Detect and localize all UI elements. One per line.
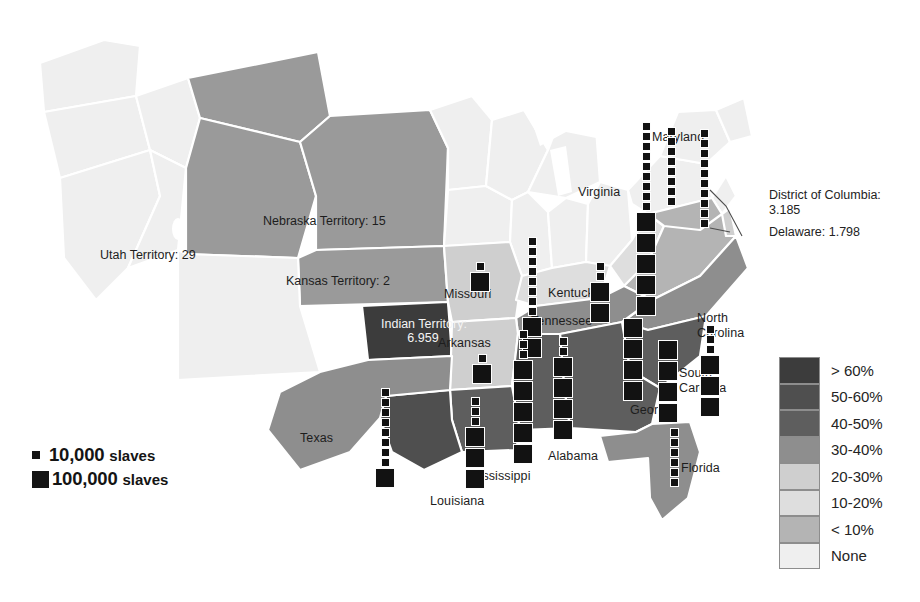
state-label: Texas xyxy=(300,432,333,445)
small-dot xyxy=(700,219,709,228)
legend-label: 50-60% xyxy=(831,388,883,405)
big-dot xyxy=(553,399,573,419)
dot-stack xyxy=(700,129,709,229)
state-label: Virginia xyxy=(578,186,620,199)
small-dot xyxy=(381,408,390,417)
legend-label: 20-30% xyxy=(831,468,883,485)
big-dot xyxy=(472,364,492,384)
small-dot xyxy=(670,428,679,437)
dot-stack xyxy=(623,318,643,402)
big-dot xyxy=(700,397,720,417)
percentage-legend: > 60%50-60%40-50%30-40%20-30%10-20%< 10%… xyxy=(779,357,883,569)
legend-row: 20-30% xyxy=(779,463,883,490)
legend-label: 40-50% xyxy=(831,415,883,432)
territory-newmexico xyxy=(178,250,320,380)
key-row-small: 10,000 slaves xyxy=(32,443,168,467)
small-dot xyxy=(528,307,537,316)
small-dot xyxy=(519,330,528,339)
dot-stack xyxy=(636,122,656,317)
small-dot xyxy=(706,345,715,354)
big-dot xyxy=(700,355,720,375)
small-dot xyxy=(642,142,651,151)
state-label: Louisiana xyxy=(430,495,484,508)
small-dot xyxy=(381,438,390,447)
small-dot xyxy=(559,337,568,346)
state-california xyxy=(60,150,160,300)
small-dot xyxy=(700,209,709,218)
big-dot xyxy=(636,254,656,274)
legend-row: 40-50% xyxy=(779,410,883,437)
small-dot xyxy=(528,267,537,276)
small-dot xyxy=(642,172,651,181)
small-dot xyxy=(528,257,537,266)
small-dot xyxy=(667,137,676,146)
small-dot xyxy=(478,354,487,363)
territory-label: Indian Territory: xyxy=(381,318,465,332)
small-dot xyxy=(381,398,390,407)
legend-swatch xyxy=(779,516,820,543)
small-dot xyxy=(700,169,709,178)
state-indiana xyxy=(548,198,588,268)
small-dot xyxy=(519,340,528,349)
big-dot xyxy=(470,272,490,292)
small-dot xyxy=(381,428,390,437)
small-dot xyxy=(700,129,709,138)
small-dot xyxy=(670,468,679,477)
big-dot xyxy=(700,376,720,396)
state-label: Maryland xyxy=(652,131,704,144)
big-dot-swatch xyxy=(32,471,49,488)
big-dot xyxy=(658,340,678,360)
small-dot xyxy=(700,199,709,208)
small-dot xyxy=(471,417,480,426)
small-dot xyxy=(642,132,651,141)
big-dot xyxy=(636,233,656,253)
big-dot xyxy=(465,469,485,489)
small-dot xyxy=(381,388,390,397)
legend-swatch xyxy=(779,490,820,517)
small-dot xyxy=(642,192,651,201)
small-dot xyxy=(667,177,676,186)
legend-swatch xyxy=(779,543,820,570)
small-dot xyxy=(706,325,715,334)
small-dot xyxy=(667,157,676,166)
small-dot xyxy=(471,397,480,406)
big-dot xyxy=(623,318,643,338)
dot-stack xyxy=(590,262,610,324)
legend-row: None xyxy=(779,543,883,570)
legend-label: > 60% xyxy=(831,362,874,379)
big-dot xyxy=(513,381,533,401)
territory-label: 6.959 xyxy=(381,332,465,346)
small-dot xyxy=(700,189,709,198)
territory-label: Nebraska Territory: 15 xyxy=(263,214,386,228)
small-dot xyxy=(528,287,537,296)
small-dot xyxy=(381,448,390,457)
dot-stack xyxy=(670,428,679,488)
territory-label: Kansas Territory: 2 xyxy=(286,274,390,288)
small-dot xyxy=(670,438,679,447)
dot-stack xyxy=(472,354,492,385)
small-dot xyxy=(667,147,676,156)
state-label: North xyxy=(697,312,728,325)
small-dot xyxy=(642,162,651,171)
small-dot xyxy=(700,179,709,188)
big-dot xyxy=(553,357,573,377)
big-dot xyxy=(623,360,643,380)
big-dot xyxy=(658,403,678,423)
big-dot xyxy=(658,382,678,402)
state-label: Florida xyxy=(681,462,720,475)
map-canvas: MarylandVirginiaMissouriKentuckyTennesse… xyxy=(0,0,760,580)
big-dot xyxy=(513,444,533,464)
small-dot xyxy=(528,247,537,256)
small-dot-swatch xyxy=(32,451,40,459)
big-dot xyxy=(513,423,533,443)
state-label: Alabama xyxy=(548,450,598,463)
small-dot xyxy=(381,418,390,427)
big-dot xyxy=(465,448,485,468)
small-dot xyxy=(528,237,537,246)
big-dot xyxy=(623,339,643,359)
callout-line: District of Columbia: xyxy=(769,188,881,203)
legend-label: 30-40% xyxy=(831,441,883,458)
small-dot xyxy=(381,458,390,467)
map-callout: District of Columbia:3.185 xyxy=(769,188,881,218)
small-dot xyxy=(528,277,537,286)
